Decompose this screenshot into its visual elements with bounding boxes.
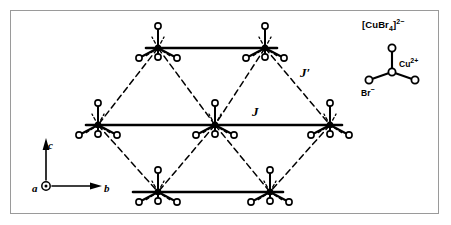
lattice-node bbox=[193, 100, 237, 138]
br-atom bbox=[155, 23, 161, 29]
axis-label-b: b bbox=[104, 183, 110, 194]
cu-atom bbox=[267, 189, 272, 194]
br-atom bbox=[155, 54, 161, 60]
br-atom bbox=[267, 167, 273, 173]
br-atom bbox=[174, 55, 180, 61]
cu-atom bbox=[262, 45, 267, 50]
br-atom bbox=[136, 55, 142, 61]
axis-a-symbol-dot bbox=[45, 185, 48, 188]
br-atom bbox=[155, 167, 161, 173]
inset-br-atom bbox=[411, 76, 418, 83]
br-atom bbox=[76, 132, 82, 138]
inset-br-atom bbox=[365, 76, 372, 83]
Jp-bond bbox=[158, 125, 215, 192]
Jp-bond bbox=[270, 125, 330, 192]
br-atom bbox=[327, 131, 333, 137]
cu-atom bbox=[212, 122, 217, 127]
figure-root: J J′ a b c [CuBr4]2− Cu2+ Br− bbox=[0, 0, 451, 225]
coupling-label-J-prime: J′ bbox=[300, 66, 310, 79]
br-atom bbox=[281, 55, 287, 61]
br-atom bbox=[212, 131, 218, 137]
br-atom bbox=[193, 132, 199, 138]
br-atom bbox=[114, 132, 120, 138]
inset-br-atom bbox=[388, 44, 395, 51]
inset-br-label: Br− bbox=[361, 86, 375, 97]
cu-element: Cu bbox=[399, 59, 410, 69]
lattice-diagram bbox=[0, 0, 451, 225]
br-atom bbox=[248, 199, 254, 205]
br-charge: − bbox=[370, 86, 374, 93]
cu-charge: 2+ bbox=[410, 57, 418, 64]
inset-formula-label: [CuBr4]2− bbox=[362, 18, 404, 32]
cu-atom bbox=[155, 45, 160, 50]
br-atom bbox=[286, 199, 292, 205]
Jp-bond bbox=[98, 48, 158, 125]
lattice-node bbox=[136, 23, 180, 61]
formula-base: [CuBr bbox=[362, 19, 389, 30]
br-atom bbox=[212, 100, 218, 106]
Jp-bond bbox=[215, 125, 270, 192]
br-atom bbox=[136, 199, 142, 205]
formula-superscript: 2− bbox=[396, 18, 404, 25]
cu-atom bbox=[95, 122, 100, 127]
cu-atom bbox=[155, 189, 160, 194]
br-atom bbox=[262, 23, 268, 29]
coupling-label-J: J bbox=[252, 105, 259, 118]
br-atom bbox=[174, 199, 180, 205]
cu-atom bbox=[327, 122, 332, 127]
br-atom bbox=[327, 100, 333, 106]
br-atom bbox=[95, 131, 101, 137]
lattice-node bbox=[243, 23, 287, 61]
br-atom bbox=[267, 198, 273, 204]
Jp-bond bbox=[265, 48, 330, 125]
lattice-node bbox=[136, 167, 180, 205]
axis-b-arrowhead bbox=[90, 183, 102, 190]
br-atom bbox=[308, 132, 314, 138]
axis-label-c: c bbox=[48, 140, 53, 151]
br-atom bbox=[262, 54, 268, 60]
br-atom bbox=[95, 100, 101, 106]
br-atom bbox=[155, 198, 161, 204]
br-atom bbox=[243, 55, 249, 61]
br-atom bbox=[346, 132, 352, 138]
inset-cu-label: Cu2+ bbox=[399, 57, 418, 68]
Jp-bond bbox=[158, 48, 215, 125]
lattice-node-group bbox=[76, 23, 352, 205]
axis-label-a: a bbox=[32, 183, 38, 194]
inset-cu-atom bbox=[388, 68, 395, 75]
br-atom bbox=[231, 132, 237, 138]
